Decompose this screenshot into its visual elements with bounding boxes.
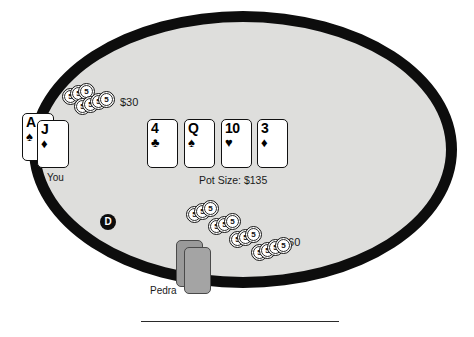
bet-amount-you: $30 <box>120 96 138 108</box>
chip-denomination: 5 <box>104 93 108 107</box>
club-icon: ♣ <box>151 136 160 149</box>
hole-card-you-2[interactable]: J ♦ <box>37 120 69 168</box>
community-card-1[interactable]: 4 ♣ <box>147 119 178 168</box>
chip-denomination: 5 <box>251 228 255 242</box>
community-card-2[interactable]: Q ♠ <box>184 119 215 168</box>
chip-denomination: 5 <box>208 202 212 216</box>
bottom-divider <box>141 321 339 322</box>
diamond-icon: ♦ <box>261 136 268 149</box>
card-rank: A <box>26 115 36 130</box>
pot-size-label: Pot Size: $135 <box>199 174 267 186</box>
spade-icon: ♠ <box>26 130 33 143</box>
card-rank: 10 <box>225 121 240 136</box>
pedra-chip[interactable]: 5 <box>202 200 219 217</box>
pedra-chip[interactable]: 5 <box>245 226 262 243</box>
card-rank: Q <box>188 121 198 136</box>
diamond-icon: ♦ <box>41 137 48 150</box>
pedra-chip[interactable]: 5 <box>275 237 292 254</box>
card-rank: 4 <box>151 121 158 136</box>
hole-card-pedra-2[interactable] <box>184 247 211 294</box>
player-name-pedra: Pedra <box>150 285 177 297</box>
player-name-you: You <box>47 172 64 184</box>
chip-denomination: 5 <box>230 215 234 229</box>
heart-icon: ♥ <box>225 136 233 149</box>
poker-table-scene: A ♠ J ♦ 4 ♣ Q ♠ 10 ♥ 3 ♦ D 5555555 55555… <box>0 0 474 337</box>
spade-icon: ♠ <box>188 136 195 149</box>
card-rank: 3 <box>261 121 268 136</box>
you-chip[interactable]: 5 <box>98 91 115 108</box>
pedra-chip[interactable]: 5 <box>224 213 241 230</box>
community-card-3[interactable]: 10 ♥ <box>221 119 252 168</box>
community-card-4[interactable]: 3 ♦ <box>257 119 288 168</box>
card-rank: J <box>41 122 48 137</box>
dealer-button[interactable]: D <box>100 214 116 230</box>
chip-denomination: 5 <box>281 239 285 253</box>
